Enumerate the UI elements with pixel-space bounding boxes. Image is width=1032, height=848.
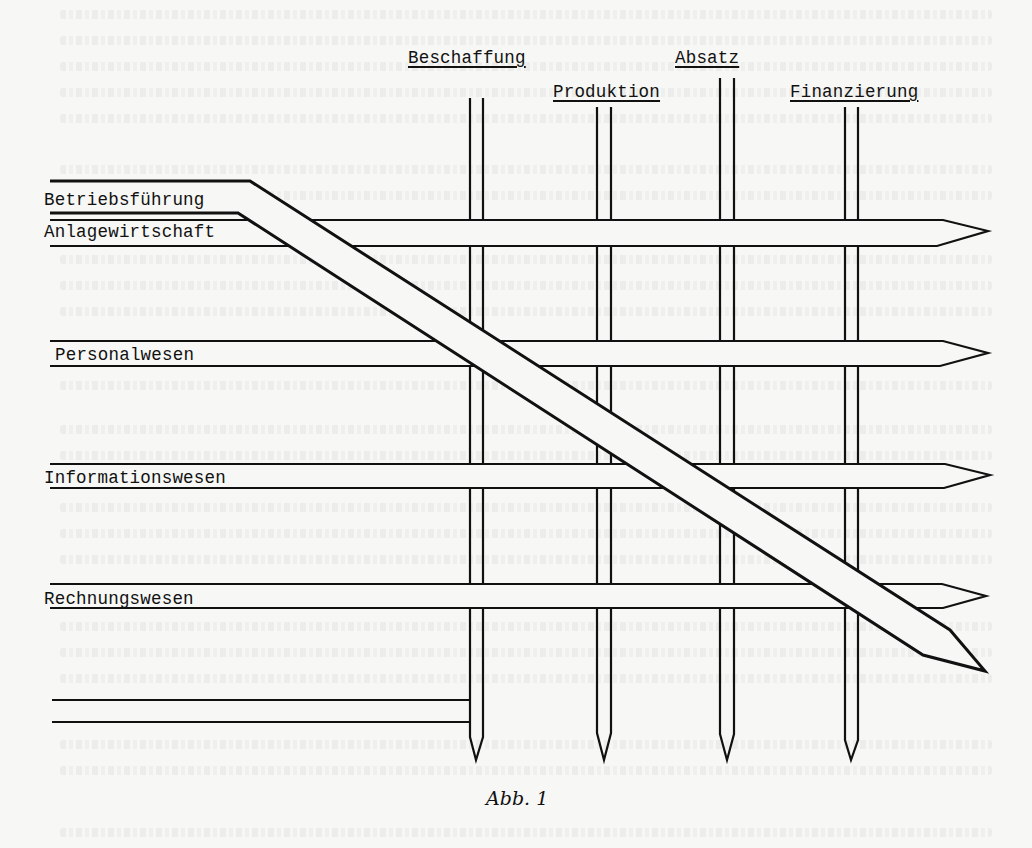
row-label-anlagewirtschaft: Anlagewirtschaft bbox=[44, 222, 215, 242]
column-label-absatz: Absatz bbox=[675, 48, 739, 68]
column-band-finanzierung bbox=[845, 107, 858, 760]
column-label-beschaffung: Beschaffung bbox=[408, 48, 526, 68]
bottom-link-lines bbox=[52, 700, 470, 722]
matrix-organization-diagram bbox=[0, 0, 1032, 848]
column-label-produktion: Produktion bbox=[553, 82, 660, 102]
row-label-informationswesen: Informationswesen bbox=[44, 468, 226, 488]
row-label-personalwesen: Personalwesen bbox=[55, 345, 194, 365]
column-label-finanzierung: Finanzierung bbox=[790, 82, 918, 102]
column-band-beschaffung bbox=[470, 98, 483, 760]
row-label-betriebsfuehrung: Betriebsführung bbox=[44, 190, 205, 210]
figure-caption: Abb. 1 bbox=[486, 787, 548, 809]
column-band-absatz bbox=[720, 78, 734, 760]
row-label-rechnungswesen: Rechnungswesen bbox=[44, 589, 194, 609]
